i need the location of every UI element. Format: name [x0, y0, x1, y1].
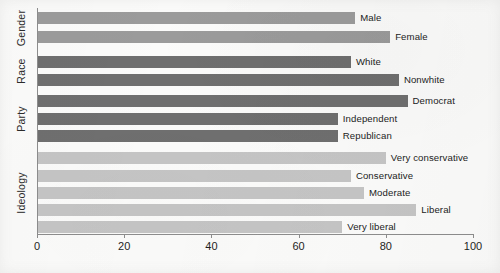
tick-label-100: 100: [464, 240, 482, 252]
group-label-party: Party: [14, 87, 28, 151]
bar-label-democrat: Democrat: [413, 95, 455, 106]
bar-label-very-conservative: Very conservative: [391, 152, 468, 163]
bar-liberal: [37, 204, 416, 216]
tick-label-80: 80: [380, 240, 392, 252]
bar-female: [37, 31, 390, 43]
bar-independent: [37, 113, 338, 125]
bar-label-moderate: Moderate: [369, 187, 410, 198]
value-axis-line: [37, 234, 474, 235]
tick-0: [37, 234, 38, 238]
bar-very-conservative: [37, 152, 386, 164]
tick-label-60: 60: [292, 240, 304, 252]
bar-democrat: [37, 95, 408, 107]
tick-40: [211, 234, 212, 238]
bar-label-nonwhite: Nonwhite: [404, 74, 445, 85]
bar-moderate: [37, 187, 364, 199]
bar-label-female: Female: [395, 31, 428, 42]
tick-60: [299, 234, 300, 238]
bar-label-liberal: Liberal: [421, 204, 451, 215]
bar-white: [37, 56, 351, 68]
bar-label-conservative: Conservative: [356, 170, 413, 181]
bar-label-independent: Independent: [343, 113, 397, 124]
bar-label-male: Male: [360, 12, 381, 23]
bar-very-liberal: [37, 221, 342, 233]
tick-20: [124, 234, 125, 238]
bar-republican: [37, 130, 338, 142]
bar-conservative: [37, 170, 351, 182]
tick-label-20: 20: [118, 240, 130, 252]
bar-chart-figure: GenderRacePartyIdeology MaleFemaleWhiteN…: [0, 0, 500, 273]
tick-80: [386, 234, 387, 238]
group-label-ideology: Ideology: [14, 161, 28, 225]
bar-label-white: White: [356, 56, 381, 67]
tick-label-0: 0: [34, 240, 40, 252]
tick-label-40: 40: [205, 240, 217, 252]
bar-label-very-liberal: Very liberal: [347, 221, 396, 232]
category-axis-line: [37, 8, 38, 235]
bar-nonwhite: [37, 74, 399, 86]
bar-label-republican: Republican: [343, 130, 392, 141]
tick-100: [473, 234, 474, 238]
bar-male: [37, 12, 355, 24]
